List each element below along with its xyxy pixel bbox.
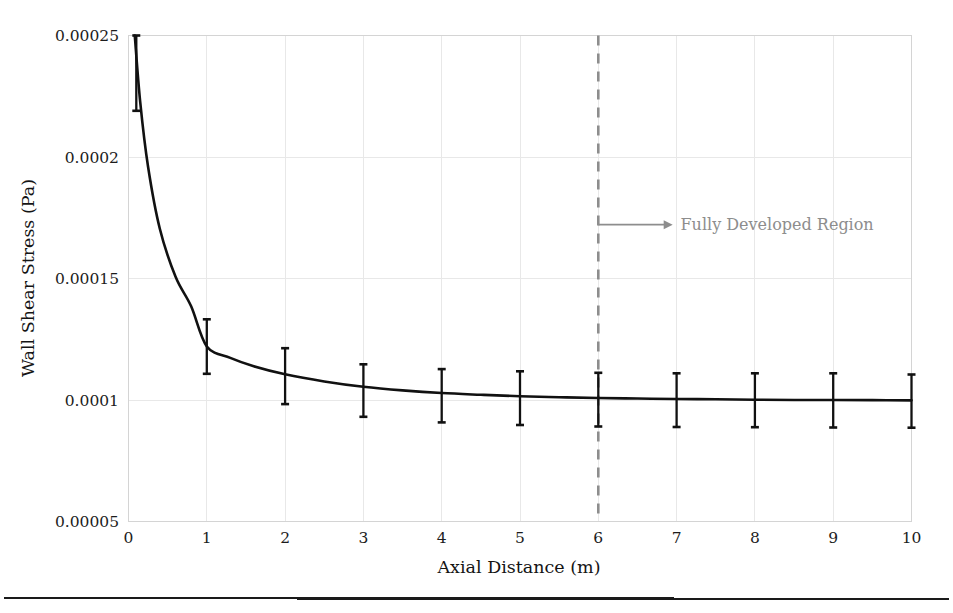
x-axis-title: Axial Distance (m): [436, 557, 600, 577]
y-tick-label-0.00005: 0.00005: [55, 513, 119, 531]
errorbar: [516, 371, 524, 425]
x-tick-label-1: 1: [202, 529, 212, 547]
wall-shear-stress-chart: 012345678910 0.000050.00010.000150.00020…: [0, 0, 953, 613]
errorbar: [359, 364, 367, 417]
x-tick-label-10: 10: [902, 529, 922, 547]
annotation-fully-developed-region: Fully Developed Region: [598, 215, 873, 234]
x-tick-label-0: 0: [124, 529, 134, 547]
gridlines-group: [129, 36, 912, 522]
x-tick-label-9: 9: [828, 529, 838, 547]
y-tick-label-0.00015: 0.00015: [55, 270, 119, 288]
x-tick-label-6: 6: [593, 529, 603, 547]
figure-container: 012345678910 0.000050.00010.000150.00020…: [0, 0, 953, 613]
annotations-group: Fully Developed Region: [598, 215, 873, 234]
x-tick-label-5: 5: [515, 529, 525, 547]
y-tick-label-0.0002: 0.0002: [65, 149, 119, 167]
y-tick-label-0.00025: 0.00025: [55, 27, 119, 45]
annotation-label: Fully Developed Region: [681, 215, 874, 234]
x-tick-label-4: 4: [437, 529, 447, 547]
bottom-divider-rule: [4, 598, 949, 599]
x-tick-label-7: 7: [672, 529, 682, 547]
x-tick-label-3: 3: [358, 529, 368, 547]
x-tick-label-8: 8: [750, 529, 760, 547]
x-tick-labels-group: 012345678910: [124, 529, 922, 547]
y-axis-title: Wall Shear Stress (Pa): [18, 179, 38, 377]
y-tick-labels-group: 0.000050.00010.000150.00020.00025: [55, 27, 119, 531]
annotation-arrow-head: [664, 220, 673, 229]
x-tick-label-2: 2: [280, 529, 290, 547]
y-tick-label-0.0001: 0.0001: [65, 392, 119, 410]
errorbar: [438, 369, 446, 422]
